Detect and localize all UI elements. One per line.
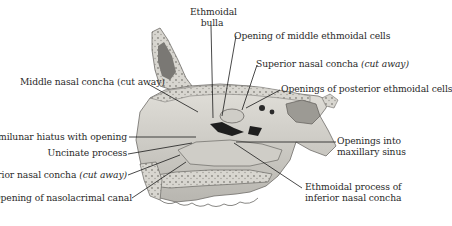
label-maxillary-openings: Openings into maxillary sinus [337,136,406,157]
label-ethmoidal-process: Ethmoidal process of inferior nasal conc… [305,182,401,203]
posterior-ethmoidal-opening-2 [270,110,275,115]
label-superior-concha-paren: (cut away) [361,58,409,69]
label-middle-concha: Middle nasal concha (cut away) [20,77,165,88]
posterior-ethmoidal-opening [259,105,265,111]
label-uncinate-process: Uncinate process [48,148,127,159]
label-ethmoidal-process-line2: inferior nasal concha [305,193,401,204]
label-ethmoidal-bulla: Ethmoidal bulla [190,7,234,28]
ethmoidal-bulla-shape [220,109,244,123]
label-ethmoidal-bulla-line1: Ethmoidal [190,7,234,18]
label-ethmoidal-bulla-line2: bulla [190,18,234,29]
label-openings-posterior-ethmoidal: Openings of posterior ethmoidal cells [281,84,452,95]
label-superior-concha-text: Superior nasal concha [256,58,361,69]
label-inferior-concha: Inferior nasal concha (cut away) [0,170,127,181]
label-superior-concha: Superior nasal concha (cut away) [256,59,409,70]
label-maxillary-line1: Openings into [337,136,406,147]
label-semilunar-hiatus: Semilunar hiatus with opening [0,132,127,143]
label-nasolacrimal-canal: Opening of nasolacrimal canal [0,193,132,204]
label-inferior-concha-paren: (cut away) [79,169,127,180]
label-ethmoidal-process-line1: Ethmoidal process of [305,182,401,193]
label-inferior-concha-text: Inferior nasal concha [0,169,79,180]
label-opening-middle-ethmoidal: Opening of middle ethmoidal cells [234,31,390,42]
label-maxillary-line2: maxillary sinus [337,147,406,158]
